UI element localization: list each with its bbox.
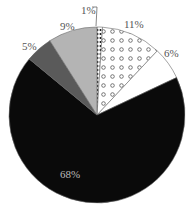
- label-5pct: 5%: [22, 40, 37, 52]
- label-9pct: 9%: [60, 20, 75, 32]
- label-11pct: 11%: [124, 18, 144, 30]
- pie-slices: [9, 27, 185, 203]
- label-6pct: 6%: [164, 47, 179, 59]
- label-1pct: 1%: [81, 4, 96, 16]
- label-68pct: 68%: [60, 168, 80, 180]
- pie-chart: 1% 11% 6% 68% 5% 9%: [0, 0, 190, 211]
